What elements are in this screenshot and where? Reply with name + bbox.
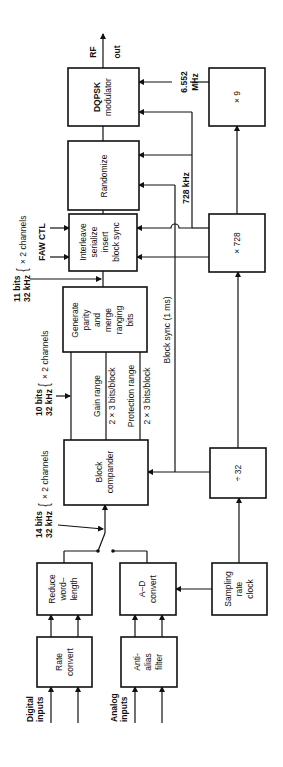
svg-text:× 728: × 728 [232, 232, 242, 254]
svg-text:Anti-: Anti- [132, 653, 142, 671]
svg-text:{: { [14, 268, 30, 271]
svg-text:MHz: MHz [190, 73, 200, 90]
svg-text:Rate: Rate [54, 653, 64, 671]
svg-text:word–: word– [58, 577, 68, 601]
block-dqpsk-modulator: DQPSK modulator [68, 68, 139, 126]
svg-text:block sync: block sync [111, 221, 121, 261]
block-randomize: Randomize [68, 141, 139, 210]
svg-text:Generate: Generate [70, 302, 80, 338]
svg-text:Block: Block [94, 461, 104, 483]
svg-text:convert: convert [148, 574, 158, 603]
svg-text:and: and [92, 313, 102, 327]
svg-text:Block sync (1 ms): Block sync (1 ms) [162, 296, 172, 363]
block-x728: × 728 [209, 214, 265, 272]
svg-text:32 kHz: 32 kHz [44, 389, 54, 416]
svg-text:serialize: serialize [89, 226, 99, 257]
svg-text:2 × 3 bits/block: 2 × 3 bits/block [142, 367, 152, 425]
svg-text:32 kHz: 32 kHz [22, 275, 32, 302]
svg-text:14 bits: 14 bits [34, 511, 44, 538]
svg-text:parity: parity [81, 309, 91, 331]
svg-text:× 2 channels: × 2 channels [18, 216, 28, 264]
block-div32: ÷ 32 [210, 448, 266, 498]
svg-text:insert: insert [100, 231, 110, 252]
svg-text:Protection range: Protection range [126, 365, 136, 428]
svg-text:compander: compander [105, 451, 115, 494]
svg-text:inputs: inputs [119, 696, 129, 722]
svg-text:11 bits: 11 bits [12, 275, 22, 302]
svg-text:A–D: A–D [137, 581, 147, 598]
svg-text:bits: bits [125, 313, 135, 326]
svg-text:convert: convert [65, 647, 75, 676]
svg-text:728 kHz: 728 kHz [181, 172, 191, 204]
svg-text:Interleave: Interleave [78, 223, 88, 261]
svg-text:× 9: × 9 [232, 91, 242, 103]
block-sampling-clock: Sampling rate clock [212, 563, 267, 615]
svg-text:FAW CTL: FAW CTL [37, 223, 47, 260]
svg-text:RF: RF [88, 46, 98, 57]
svg-text:Digital: Digital [25, 696, 35, 722]
block-generate-parity: Generate parity and merge ranging bits [63, 287, 147, 352]
svg-text:alias: alias [143, 653, 153, 670]
block-reduce-wordlength: Reduce word– length [37, 563, 92, 615]
block-interleave: Interleave serialize insert block sync [69, 214, 137, 271]
block-antialias-filter: Anti- alias filter [121, 637, 177, 687]
svg-text:rate: rate [234, 581, 244, 596]
svg-text:2 × 3 bits/block: 2 × 3 bits/block [107, 367, 117, 425]
svg-text:filter: filter [154, 654, 164, 670]
svg-text:{: { [36, 503, 52, 506]
svg-text:Gain range: Gain range [92, 375, 102, 417]
svg-text:out: out [112, 45, 122, 58]
svg-text:{: { [36, 383, 52, 386]
block-diagram: DQPSK modulator Randomize Interleave ser… [0, 0, 283, 767]
svg-text:Randomize: Randomize [99, 154, 109, 197]
svg-text:6.552: 6.552 [179, 71, 189, 93]
svg-text:Sampling: Sampling [223, 571, 233, 607]
svg-text:× 2 channels: × 2 channels [40, 451, 50, 499]
block-compander: Block compander [64, 440, 148, 505]
svg-text:length: length [69, 577, 79, 600]
svg-text:modulator: modulator [103, 78, 113, 116]
svg-text:32 kHz: 32 kHz [44, 511, 54, 538]
svg-text:ranging: ranging [114, 306, 124, 335]
svg-text:Reduce: Reduce [47, 574, 57, 604]
svg-text:10 bits: 10 bits [34, 389, 44, 416]
svg-text:× 2 channels: × 2 channels [40, 331, 50, 379]
svg-text:÷ 32: ÷ 32 [233, 464, 243, 481]
svg-text:inputs: inputs [35, 696, 45, 722]
svg-text:DQPSK: DQPSK [92, 81, 102, 112]
svg-text:merge: merge [103, 308, 113, 332]
svg-text:Analog: Analog [109, 693, 119, 722]
block-x9: × 9 [209, 68, 265, 126]
svg-text:clock: clock [245, 579, 255, 599]
block-rate-convert: Rate convert [37, 637, 92, 687]
block-ad-convert: A–D convert [120, 563, 176, 615]
